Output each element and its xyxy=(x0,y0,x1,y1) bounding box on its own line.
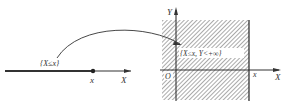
y-axis-label: Y xyxy=(167,7,173,17)
point-marker xyxy=(91,69,95,73)
diagram-canvas: x X {X≤x} Y X O x {X≤x, Y<+∞} xyxy=(0,0,286,104)
x-axis-arrow-icon xyxy=(124,69,131,73)
x-axis-label: X xyxy=(274,72,281,82)
y-axis-arrow-icon xyxy=(174,7,178,15)
hatched-region xyxy=(162,20,249,100)
mapping-arrow xyxy=(57,30,180,58)
point-label: x xyxy=(89,75,94,85)
origin-label: O xyxy=(165,72,171,81)
boundary-label: x xyxy=(252,70,257,79)
event-label: {X≤x} xyxy=(40,59,60,68)
left-number-line xyxy=(5,69,131,73)
region-label: {X≤x, Y<+∞} xyxy=(180,49,221,58)
left-axis-label: X xyxy=(120,75,127,85)
